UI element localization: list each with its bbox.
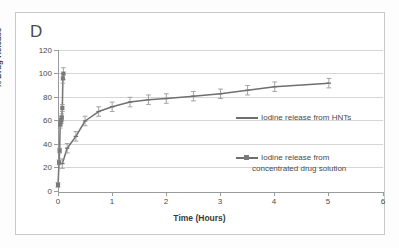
legend-entry-hnts: Iodine release from HNTs — [236, 113, 351, 122]
legend-label-solution-line1: Iodine release from — [261, 153, 329, 162]
legend-label-hnts: Iodine release from HNTs — [261, 113, 351, 122]
legend-entry-solution: Iodine release from — [236, 153, 329, 162]
legend-marker-solution-icon — [236, 154, 258, 162]
legend-label-solution-line2: concentrated drug solution — [252, 164, 346, 173]
series-1 — [56, 68, 66, 188]
figure-panel: D 120 100 80 60 40 20 0 0 1 2 3 4 5 6 % … — [0, 0, 399, 248]
plot-data-layer — [0, 0, 399, 248]
legend-marker-hnts-icon — [236, 114, 258, 122]
